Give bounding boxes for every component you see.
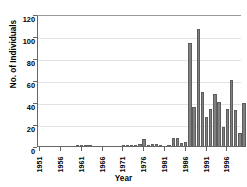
y-tick-mark: [33, 37, 37, 38]
x-tick-label-wrap: 1961: [76, 151, 86, 175]
y-axis-tick-labels: 020406080100120: [14, 11, 35, 147]
x-tick-label-wrap: 1971: [117, 151, 127, 175]
x-tick-label-wrap: 1986: [180, 151, 190, 175]
bar: [217, 102, 220, 147]
bar: [188, 43, 191, 148]
y-tick-label: 80: [14, 59, 35, 69]
y-tick-label: 60: [14, 81, 35, 91]
bar: [238, 133, 241, 147]
bar: [234, 110, 237, 147]
y-tick-label: 0: [14, 147, 35, 157]
bar: [242, 103, 245, 147]
bar-chart: No. of Individuals 020406080100120 19511…: [0, 0, 247, 187]
plot-area: [37, 15, 241, 147]
x-axis-tick-labels: 1951195619611966197119761981198619911996: [37, 151, 242, 175]
y-tick-mark: [33, 103, 37, 104]
x-tick-label-wrap: 1981: [159, 151, 169, 175]
y-tick-mark: [33, 59, 37, 60]
y-tick-mark: [33, 81, 37, 82]
bar: [209, 109, 212, 148]
bar: [197, 29, 200, 147]
y-tick-mark: [33, 15, 37, 16]
bar-series: [38, 15, 241, 147]
x-tick-label-wrap: 1976: [138, 151, 148, 175]
bar: [222, 127, 225, 147]
x-tick-label-wrap: 1991: [201, 151, 211, 175]
y-tick-label: 20: [14, 125, 35, 135]
bar: [201, 92, 204, 147]
x-tick-label-wrap: 1956: [55, 151, 65, 175]
bar: [226, 109, 229, 148]
y-tick-label: 100: [14, 37, 35, 47]
x-axis-title: Year: [0, 173, 247, 185]
y-tick-mark: [33, 125, 37, 126]
bar: [192, 107, 195, 147]
y-tick-label: 120: [14, 15, 35, 25]
y-tick-label: 40: [14, 103, 35, 113]
bar: [230, 80, 233, 147]
x-tick-label-wrap: 1996: [221, 151, 231, 175]
y-tick-mark: [33, 147, 37, 148]
x-tick-label-wrap: 1966: [97, 151, 107, 175]
bar: [205, 117, 208, 147]
x-tick-label-wrap: 1951: [34, 151, 44, 175]
bar: [213, 94, 216, 147]
